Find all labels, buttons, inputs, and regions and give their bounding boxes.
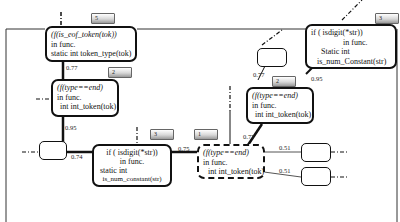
node-line: Static int	[311, 47, 391, 57]
node-line: in func.	[51, 40, 131, 50]
incoming-empty2-line	[262, 30, 282, 45]
node-line: in func.	[252, 101, 308, 111]
node-line: (f(type==end)	[203, 148, 259, 158]
edge-weight: 0.51	[279, 144, 290, 151]
empty-node-upper[interactable]	[257, 48, 287, 67]
node-line: is_num_Constant(str)	[311, 57, 391, 67]
node-line: static int token_type(tok)	[51, 49, 131, 59]
node-line: if ( isdigit(*str))	[95, 148, 169, 157]
edge-weight: 0.74	[71, 153, 82, 160]
flow-diagram: 5 (f(is_eof_token(tok)) in func. static …	[0, 0, 400, 222]
node-line: int int_token(tok)	[57, 102, 113, 112]
empty-node-out1[interactable]	[301, 143, 331, 162]
edge-weight: 0.75	[178, 145, 189, 152]
node-line: (f(type==end)	[252, 91, 308, 101]
node-line: in func.	[95, 157, 169, 166]
node-isdigit-upper[interactable]: if ( isdigit(*str)) in func. Static int …	[305, 24, 397, 69]
edge-weight: 0.95	[65, 124, 76, 131]
node-line: (f(is_eof_token(tok))	[51, 30, 131, 40]
node-badge: 3	[375, 13, 399, 24]
node-line: if ( isdigit(*str))	[311, 28, 391, 38]
edge-weight: 0.77	[253, 71, 264, 78]
incoming-n6-line	[342, 0, 362, 20]
node-badge: 3	[150, 129, 174, 140]
node-badge: 2	[272, 76, 296, 87]
edge-weight: 0.77	[66, 64, 77, 71]
edge-weight: 0.77	[243, 133, 254, 140]
node-line: (f(type==end)	[57, 83, 113, 93]
node-type-end-dashed[interactable]: (f(type==end) in func. int int_token(tok…	[197, 144, 265, 179]
node-line: int int_token(tok)	[203, 167, 259, 177]
node-badge: 1	[194, 129, 218, 140]
empty-node-out2[interactable]	[301, 167, 331, 186]
node-type-end-left[interactable]: (f(type==end) in func. int int_token(tok…	[51, 79, 119, 117]
node-line: int int_token(tok)	[252, 110, 308, 120]
node-badge: 2	[108, 67, 132, 78]
empty-node-left[interactable]	[39, 141, 67, 160]
edge-weight: 0.95	[311, 75, 322, 82]
node-line: in func.	[203, 158, 259, 168]
node-line: is_num_constant(str)	[95, 175, 169, 184]
node-line: in func.	[57, 93, 113, 103]
node-line: in func.	[311, 38, 391, 48]
node-line: static int	[95, 166, 169, 175]
node-badge: 5	[91, 13, 115, 24]
node-isdigit-lower[interactable]: if ( isdigit(*str)) in func. static int …	[92, 144, 172, 187]
edge-weight: 0.51	[279, 167, 290, 174]
node-is-eof-token[interactable]: (f(is_eof_token(tok)) in func. static in…	[45, 26, 137, 62]
node-type-end-right[interactable]: (f(type==end) in func. int int_token(tok…	[246, 87, 314, 124]
